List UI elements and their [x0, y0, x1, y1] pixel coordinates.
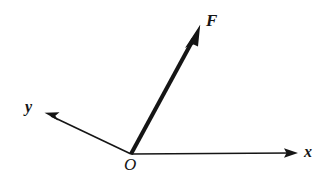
- force-vector-shaft: [131, 39, 194, 154]
- y-axis-line: [51, 116, 131, 154]
- x-axis-line: [131, 153, 291, 154]
- diagram-canvas: [0, 0, 322, 193]
- y-axis-label: y: [25, 99, 32, 115]
- y-axis-arrowhead-icon: [45, 112, 60, 120]
- x-axis-group: [131, 148, 298, 158]
- force-vector-group: [131, 25, 200, 154]
- origin-label: O: [124, 156, 136, 173]
- x-axis-label: x: [304, 144, 312, 160]
- y-axis-group: [45, 112, 132, 154]
- vector-diagram-figure: F x y O: [0, 0, 322, 193]
- force-vector-label: F: [206, 12, 217, 29]
